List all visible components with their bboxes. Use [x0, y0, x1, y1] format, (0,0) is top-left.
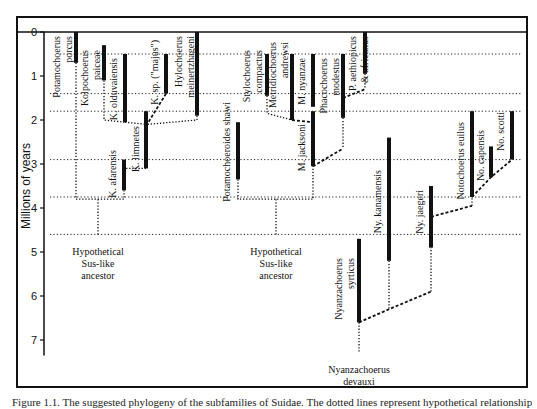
taxon-label-line: K. sp. ("majus")	[149, 40, 161, 105]
ancestor-label-sus-ancestor-left: Sus-like	[82, 258, 115, 269]
y-axis-tick-label: 6	[31, 290, 37, 302]
taxon-label-line: Metridiochoerus	[267, 42, 278, 108]
range-bar-potamochoeroides-shawi	[236, 122, 240, 179]
y-axis-tick-label: 7	[31, 334, 37, 346]
dashed-connector	[313, 149, 343, 167]
taxon-label-line: M. jacksoni	[296, 124, 307, 171]
y-axis-label: Millions of years	[19, 143, 33, 229]
range-bar-k-afarensis	[122, 160, 126, 191]
phylogeny-diagram: 01234567Millions of years Potamochoerusp…	[0, 0, 537, 409]
taxon-label-line: Stylochoerus	[241, 50, 252, 102]
range-bar-metridiochoerus-andrewsi	[290, 54, 294, 120]
taxon-label-m-nyanzae: M. nyanzae	[296, 57, 307, 104]
taxon-label-k-olduvaiensis: K. olduvaiensis	[108, 58, 119, 120]
range-bar-ny-kanamensis	[387, 138, 391, 261]
taxon-label-no-capensis: No. capensis	[475, 130, 486, 181]
taxon-label-line: Notochoerus euilus	[455, 122, 466, 200]
ancestor-label-sus-ancestor-middle: Sus-like	[260, 258, 293, 269]
taxon-label-metridiochoerus-andrewsi: Metridiochoerusandrewsi	[267, 42, 290, 108]
taxon-label-line: Kolpochoerus	[79, 50, 90, 106]
y-axis-tick-label: 1	[31, 70, 37, 82]
range-bar-no-capensis	[489, 146, 493, 177]
ancestor-label-nyanzachoerus-devauxi: devauxi	[343, 376, 375, 387]
taxon-label-potamochoerus-porcus: Potamochoerusporcus	[51, 36, 74, 98]
taxon-label-line: compactus	[253, 50, 264, 93]
dotted-connector	[147, 116, 197, 125]
taxon-label-line: K. afarensis	[107, 150, 118, 198]
taxon-label-line: No. scotti	[495, 112, 506, 151]
ancestor-label-sus-ancestor-middle: ancestor	[259, 270, 293, 281]
taxon-label-line: No. capensis	[475, 130, 486, 181]
range-bar-m-jacksoni	[311, 111, 315, 166]
ancestor-label-sus-ancestor-left: Hypothetical	[72, 246, 124, 257]
range-bar-m-nyanzae	[311, 54, 315, 107]
range-bar-kolpochoerus-paiceae	[102, 45, 106, 80]
range-bar-k-sp-majus	[164, 54, 168, 94]
range-bar-notochoerus-euilus	[470, 111, 474, 197]
range-bar-ny-jaegeri	[429, 186, 433, 248]
taxon-label-p-aethiopicus-africanus: P. aethiopicus& africanus	[347, 36, 370, 91]
taxon-label-line: syrticus	[345, 258, 356, 289]
taxon-label-line: modestus	[330, 58, 341, 96]
range-bar-nyanzachoerus-syrticus	[357, 239, 361, 323]
ancestor-label-nyanzachoerus-devauxi: Nyanzachoerus	[328, 364, 390, 375]
taxon-label-nyanzachoerus-syrticus: Nyanzachoerussyrticus	[333, 258, 356, 320]
taxon-bars	[74, 32, 514, 322]
dotted-connector	[125, 122, 147, 124]
taxon-label-k-sp-majus: K. sp. ("majus")	[149, 40, 161, 105]
taxon-label-potamochoeroides-shawi: Potamochoeroides shawi	[221, 102, 232, 202]
taxon-label-stylochoerus-compactus: Stylochoeruscompactus	[241, 50, 264, 102]
taxon-label-line: meinertzhageni	[185, 36, 196, 98]
taxon-label-line: K. limnetes	[130, 126, 141, 172]
reference-lines	[50, 54, 522, 234]
taxon-label-line: andrewsi	[279, 42, 290, 78]
taxon-label-line: M. nyanzae	[296, 57, 307, 104]
taxon-label-ny-jaegeri: Ny. jaegeri	[414, 190, 425, 234]
taxon-label-notochoerus-euilus: Notochoerus euilus	[455, 122, 466, 200]
range-bar-no-scotti	[510, 111, 514, 159]
ancestor-label-sus-ancestor-middle: Hypothetical	[250, 246, 302, 257]
taxon-label-hylochoerus-meinertzhageni: Hylochoerusmeinertzhageni	[173, 36, 196, 98]
range-bar-potamochoerus-porcus	[74, 32, 78, 63]
taxon-label-line: Ny. kanamensis	[372, 170, 383, 233]
range-bar-k-olduvaiensis	[123, 54, 127, 122]
taxon-label-line: P. aethiopicus	[347, 36, 358, 91]
taxon-label-line: porcus	[63, 36, 74, 63]
taxon-label-line: Hylochoerus	[173, 36, 184, 87]
taxon-label-line: Potamochoeroides shawi	[221, 102, 232, 202]
y-axis-tick-label: 0	[31, 26, 37, 38]
taxon-label-m-jacksoni: M. jacksoni	[296, 124, 307, 171]
y-axis-tick-label: 5	[31, 246, 37, 258]
taxon-label-no-scotti: No. scotti	[495, 112, 506, 151]
dashed-connector	[431, 206, 472, 217]
taxon-label-k-afarensis: K. afarensis	[107, 150, 118, 198]
taxon-label-line: Nyanzachoerus	[333, 258, 344, 320]
range-bar-k-limnetes	[144, 111, 148, 168]
taxon-label-line: K. olduvaiensis	[108, 58, 119, 120]
taxon-label-line: paiceae	[91, 49, 102, 80]
ancestor-label-sus-ancestor-left: ancestor	[81, 270, 115, 281]
y-axis-tick-label: 2	[31, 114, 37, 126]
taxon-label-phacochoerus-modestus: Phacochoerusmodestus	[318, 58, 341, 114]
range-bar-phacochoerus-modestus	[341, 54, 345, 118]
dashed-connector	[359, 292, 431, 323]
taxon-label-line: Phacochoerus	[318, 58, 329, 114]
taxon-label-line: & africanus	[359, 36, 370, 83]
y-axis: 01234567Millions of years	[19, 26, 44, 355]
taxon-label-k-limnetes: K. limnetes	[130, 126, 141, 172]
taxon-label-ny-kanamensis: Ny. kanamensis	[372, 170, 383, 233]
taxon-label-line: Ny. jaegeri	[414, 190, 425, 234]
taxon-label-line: Potamochoerus	[51, 36, 62, 98]
taxon-label-kolpochoerus-paiceae: Kolpochoeruspaiceae	[79, 49, 102, 106]
figure-caption: Figure 1.1. The suggested phylogeny of t…	[12, 396, 532, 408]
dashed-connector	[292, 120, 313, 122]
